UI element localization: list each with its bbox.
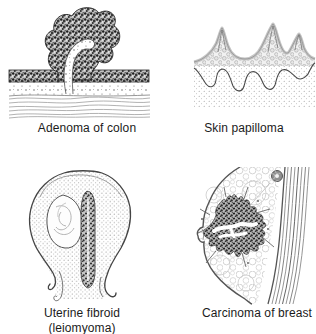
skin-papilloma-illustration bbox=[158, 0, 316, 120]
panel-carcinoma-of-breast: Carcinoma of breast bbox=[158, 167, 316, 334]
panel-caption: Carcinoma of breast bbox=[178, 307, 316, 320]
panel-skin-papilloma: Skin papilloma bbox=[158, 0, 316, 167]
panel-uterine-fibroid: Uterine fibroid (leiomyoma) bbox=[0, 167, 158, 334]
colon-submucosa bbox=[9, 82, 149, 95]
colon-muscle-layer-lines bbox=[9, 95, 150, 118]
papilloma-epidermis bbox=[194, 24, 315, 66]
panel-caption: Skin papilloma bbox=[165, 122, 316, 135]
endometrial-cavity bbox=[81, 191, 95, 288]
panel-adenoma-of-colon: Adenoma of colon bbox=[0, 0, 158, 167]
panel-caption: Adenoma of colon bbox=[8, 122, 158, 135]
carcinoma-of-breast-illustration bbox=[158, 167, 316, 305]
figure-grid: Adenoma of colon bbox=[0, 0, 316, 334]
adenoma-of-colon-illustration bbox=[0, 0, 158, 120]
panel-caption-line2: (leiomyoma) bbox=[3, 322, 158, 334]
uterine-fibroid-illustration bbox=[0, 167, 158, 305]
panel-caption: Uterine fibroid bbox=[3, 307, 158, 320]
